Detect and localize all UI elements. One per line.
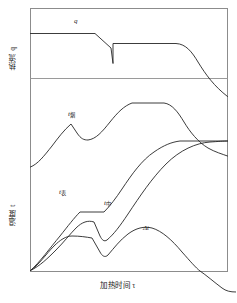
temperature-panel	[31, 103, 237, 292]
curve-label-q-base: q	[74, 17, 78, 25]
curve-t-surface	[31, 141, 228, 271]
curve-t-center	[31, 141, 228, 271]
curve-label-t-center-sub: 中	[106, 201, 111, 207]
curve-label-t-flue: t烟	[68, 111, 75, 118]
curve-label-delta-t-base: Δt	[143, 224, 149, 232]
plot-canvas	[0, 0, 236, 303]
curve-q	[31, 34, 228, 97]
curve-label-delta-t: Δt	[143, 225, 149, 232]
curve-label-t-flue-sub: 烟	[70, 112, 75, 118]
curve-t-flue	[31, 103, 228, 167]
heat-flux-panel	[31, 34, 228, 97]
curve-label-t-surface-sub: 表	[61, 190, 66, 196]
figure-container: 热流 q 温度 t 加热时间 τ q t烟 t表 t中 Δt	[0, 0, 236, 303]
y-axis-label-heat-flux: 热流 q	[9, 24, 17, 70]
curve-label-t-center: t中	[104, 200, 111, 207]
y-axis-label-temperature: 温度 t	[9, 168, 17, 226]
curve-label-q: q	[74, 18, 78, 25]
curve-label-t-surface: t表	[59, 189, 66, 196]
x-axis-label-heating-time: 加热时间 τ	[0, 279, 236, 290]
